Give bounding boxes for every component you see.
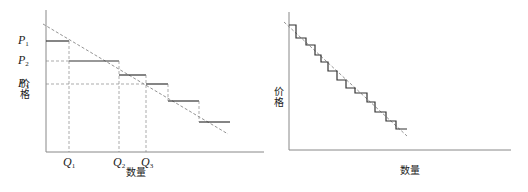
right-y-axis-label: 价格 xyxy=(272,86,282,108)
left-chart xyxy=(43,10,264,152)
left-guide-lines xyxy=(46,41,199,152)
left-y-axis-label: 价格 xyxy=(18,78,28,100)
quantity-label-q2: Q2 xyxy=(113,156,125,170)
price-label-p2: P2 xyxy=(18,54,29,68)
quantity-label-q1: Q1 xyxy=(63,156,75,170)
demand-step-diagrams xyxy=(0,0,528,192)
right-demand-line xyxy=(284,22,407,136)
left-x-axis-label: 数量 xyxy=(126,168,146,178)
right-x-axis-label: 数量 xyxy=(400,166,420,176)
left-step-demand xyxy=(46,41,230,122)
right-chart xyxy=(284,12,511,150)
right-step-demand xyxy=(289,25,407,129)
left-demand-line xyxy=(43,24,228,134)
price-label-p1: P1 xyxy=(18,34,29,48)
